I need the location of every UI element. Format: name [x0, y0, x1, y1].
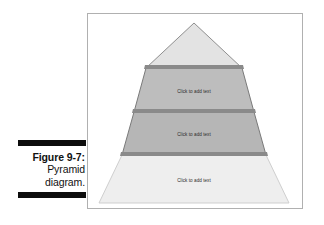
caption-rule-top: [18, 140, 86, 146]
caption-text: Figure 9-7: Pyramid diagram.: [10, 151, 86, 188]
pyramid-tier-1-shape[interactable]: [146, 23, 242, 68]
caption-description-line-2: diagram.: [10, 176, 85, 188]
pyramid-divider-band-3: [120, 152, 268, 156]
pyramid-divider-band-2: [132, 109, 256, 113]
pyramid-divider-band-1: [144, 65, 244, 69]
figure-caption: Figure 9-7: Pyramid diagram.: [10, 140, 86, 198]
pyramid-tier-4-label: Click to add text: [177, 178, 211, 183]
pyramid-diagram[interactable]: Click to add text Click to add text Clic…: [88, 14, 302, 208]
caption-description-line-1: Pyramid: [10, 163, 85, 175]
caption-figure-number: Figure 9-7:: [10, 151, 85, 163]
caption-rule-bottom: [18, 192, 86, 198]
pyramid-tier-3-label: Click to add text: [177, 132, 211, 137]
figure-frame: Click to add text Click to add text Clic…: [87, 13, 303, 209]
pyramid-tier-2-label: Click to add text: [177, 89, 211, 94]
